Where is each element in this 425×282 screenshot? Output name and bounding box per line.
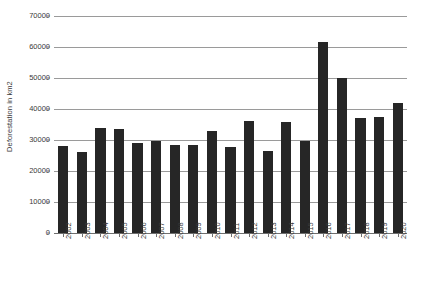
x-tick-2018: 2018 xyxy=(356,234,366,278)
x-tick-label-2013: 2013 xyxy=(270,222,278,239)
x-tick-2015: 2015 xyxy=(300,234,310,278)
deforestation-bar-chart: Deforestation in km2 0100002000030000400… xyxy=(0,0,425,282)
bar-series xyxy=(54,16,407,233)
x-tick-2005: 2005 xyxy=(114,234,124,278)
y-tickmark-50000 xyxy=(47,78,50,79)
x-axis-tick-labels: 2002200320042005200620072008200920102011… xyxy=(54,234,407,282)
bar-2004 xyxy=(95,128,105,233)
x-tick-label-2015: 2015 xyxy=(307,222,315,239)
x-tick-2006: 2006 xyxy=(133,234,143,278)
bar-2003 xyxy=(77,152,87,233)
x-tick-2012: 2012 xyxy=(244,234,254,278)
x-tick-label-2012: 2012 xyxy=(251,222,259,239)
y-tick-label-40000: 40000 xyxy=(6,105,50,113)
x-tick-label-2008: 2008 xyxy=(177,222,185,239)
x-tick-2014: 2014 xyxy=(281,234,291,278)
bar-2007 xyxy=(151,141,161,233)
x-tick-2009: 2009 xyxy=(188,234,198,278)
plot-area xyxy=(54,16,407,233)
bar-2008 xyxy=(170,145,180,233)
y-tick-label-30000: 30000 xyxy=(6,136,50,144)
x-tick-2002: 2002 xyxy=(58,234,68,278)
x-tick-label-2016: 2016 xyxy=(325,222,333,239)
bar-2012 xyxy=(244,121,254,233)
x-tick-2011: 2011 xyxy=(226,234,236,278)
x-tick-2004: 2004 xyxy=(95,234,105,278)
x-tick-label-2017: 2017 xyxy=(344,222,352,239)
x-tick-2010: 2010 xyxy=(207,234,217,278)
x-tick-label-2005: 2005 xyxy=(121,222,129,239)
bar-2009 xyxy=(188,145,198,233)
y-tickmark-10000 xyxy=(47,202,50,203)
y-axis-tick-labels: 010000200003000040000500006000070000 xyxy=(0,0,50,282)
y-tick-label-70000: 70000 xyxy=(6,12,50,20)
y-tick-label-60000: 60000 xyxy=(6,43,50,51)
x-tick-2003: 2003 xyxy=(77,234,87,278)
x-tick-label-2019: 2019 xyxy=(381,222,389,239)
x-tick-label-2011: 2011 xyxy=(233,223,241,239)
bar-2019 xyxy=(374,117,384,233)
y-tick-label-50000: 50000 xyxy=(6,74,50,82)
bar-2018 xyxy=(355,118,365,233)
bar-2002 xyxy=(58,146,68,233)
y-tick-label-20000: 20000 xyxy=(6,167,50,175)
x-tick-label-2004: 2004 xyxy=(102,222,110,239)
x-tick-label-2007: 2007 xyxy=(158,222,166,239)
x-tick-2013: 2013 xyxy=(263,234,273,278)
x-tick-label-2003: 2003 xyxy=(84,222,92,239)
y-tickmark-20000 xyxy=(47,171,50,172)
x-tick-label-2009: 2009 xyxy=(195,222,203,239)
x-tick-label-2010: 2010 xyxy=(214,222,222,239)
x-tick-2008: 2008 xyxy=(170,234,180,278)
y-tickmark-40000 xyxy=(47,109,50,110)
y-tick-label-10000: 10000 xyxy=(6,198,50,206)
y-tickmark-30000 xyxy=(47,140,50,141)
bar-2005 xyxy=(114,129,124,233)
x-tick-2020: 2020 xyxy=(393,234,403,278)
x-tick-label-2002: 2002 xyxy=(65,222,73,239)
bar-2017 xyxy=(337,78,347,233)
x-tick-label-2014: 2014 xyxy=(288,222,296,239)
bar-2006 xyxy=(132,143,142,233)
y-tickmark-60000 xyxy=(47,47,50,48)
y-tick-label-0: 0 xyxy=(6,229,50,237)
x-tick-2017: 2017 xyxy=(337,234,347,278)
bar-2013 xyxy=(263,151,273,233)
bar-2020 xyxy=(393,103,403,233)
x-tick-label-2020: 2020 xyxy=(400,222,408,239)
bar-2014 xyxy=(281,122,291,233)
x-tick-2016: 2016 xyxy=(318,234,328,278)
x-tick-label-2018: 2018 xyxy=(363,222,371,239)
bar-2015 xyxy=(300,141,310,233)
bar-2016 xyxy=(318,42,328,233)
y-tickmark-0 xyxy=(47,233,50,234)
bar-2011 xyxy=(225,147,235,233)
x-tick-label-2006: 2006 xyxy=(140,222,148,239)
x-tick-2019: 2019 xyxy=(374,234,384,278)
y-tickmark-70000 xyxy=(47,16,50,17)
bar-2010 xyxy=(207,131,217,233)
x-tick-2007: 2007 xyxy=(151,234,161,278)
